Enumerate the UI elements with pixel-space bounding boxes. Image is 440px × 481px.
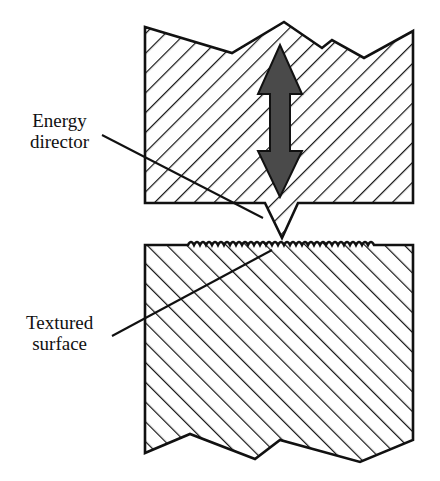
lower-part xyxy=(145,242,413,462)
ultrasonic-weld-joint-diagram xyxy=(0,0,440,481)
energy-director-label-line2: director xyxy=(30,131,89,152)
energy-director-label-line1: Energy xyxy=(30,110,89,131)
textured-surface-label-line1: Textured xyxy=(26,312,93,333)
textured-surface-label-line2: surface xyxy=(26,333,93,354)
textured-surface-label: Textured surface xyxy=(26,312,93,354)
energy-director-label: Energy director xyxy=(30,110,89,152)
